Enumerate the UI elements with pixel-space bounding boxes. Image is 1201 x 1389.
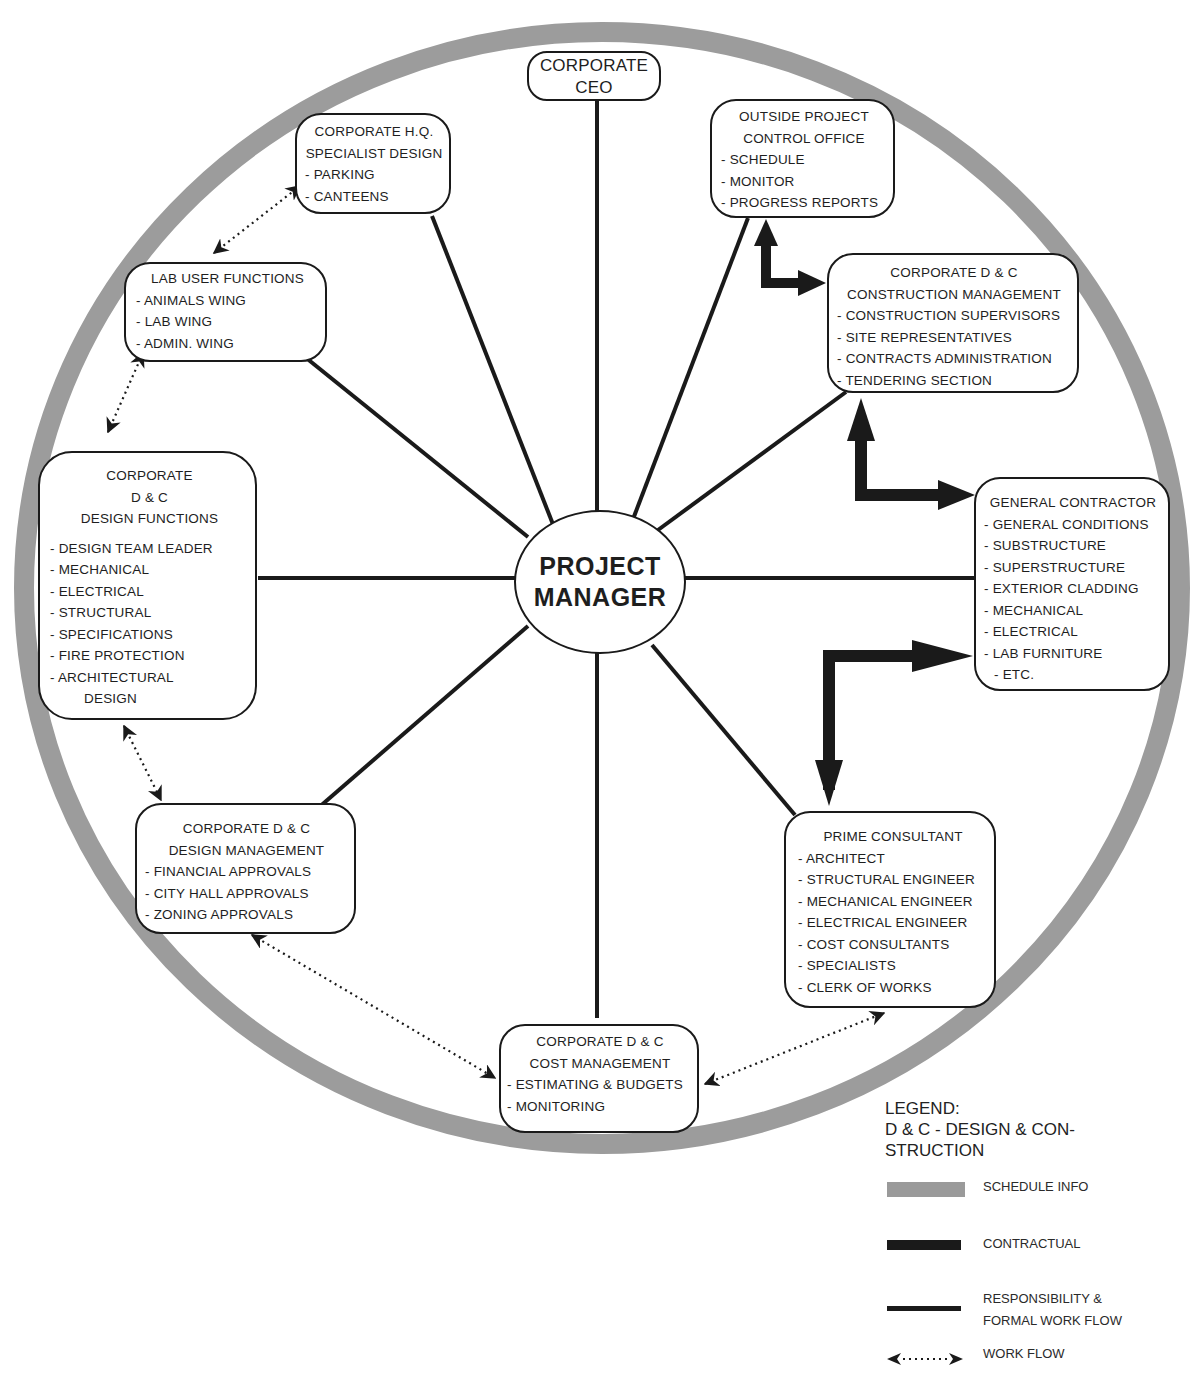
cost-title-line1: CORPORATE D & C — [507, 1031, 693, 1053]
project-organization-diagram: CORPORATE CEO CORPORATE H.Q. SPECIALIST … — [0, 0, 1201, 1389]
legend-definition-line2: STRUCTION — [885, 1140, 1185, 1161]
design-fn-item: ARCHITECTURAL — [50, 667, 249, 689]
work-flow-swatch-icon — [887, 1349, 963, 1369]
hq-item: PARKING — [305, 164, 443, 186]
contractor-item: ETC. — [984, 664, 1162, 686]
design-fn-item: STRUCTURAL — [50, 602, 249, 624]
contractor-item: GENERAL CONDITIONS — [984, 514, 1162, 536]
hq-specialist-design-box: CORPORATE H.Q. SPECIALIST DESIGN PARKING… — [295, 113, 451, 214]
hq-items: PARKING CANTEENS — [305, 164, 443, 207]
design-fn-items: DESIGN TEAM LEADER MECHANICAL ELECTRICAL… — [50, 538, 249, 710]
design-fn-item: FIRE PROTECTION — [50, 645, 249, 667]
control-item: MONITOR — [721, 171, 887, 193]
figure-caption-cropped — [0, 1374, 1201, 1389]
legend-label: WORK FLOW — [983, 1343, 1065, 1365]
consultant-item: CLERK OF WORKS — [798, 977, 988, 999]
lab-item: ANIMALS WING — [136, 290, 319, 312]
legend-definition-line1: D & C - DESIGN & CON- — [885, 1119, 1185, 1140]
pm-line1: PROJECT — [539, 551, 661, 582]
contractor-item: EXTERIOR CLADDING — [984, 578, 1162, 600]
legend-label: SCHEDULE INFO — [983, 1176, 1088, 1198]
contractor-item: LAB FURNITURE — [984, 643, 1162, 665]
legend-label: FORMAL WORK FLOW — [983, 1310, 1122, 1332]
hq-item: CANTEENS — [305, 186, 443, 208]
construction-management-box: CORPORATE D & C CONSTRUCTION MANAGEMENT … — [827, 253, 1079, 393]
cost-item: MONITORING — [507, 1096, 693, 1118]
design-mgmt-title-line2: DESIGN MANAGEMENT — [145, 840, 348, 862]
control-item: PROGRESS REPORTS — [721, 192, 887, 214]
design-mgmt-item: CITY HALL APPROVALS — [145, 883, 348, 905]
contractor-items: GENERAL CONDITIONS SUBSTRUCTURE SUPERSTR… — [984, 514, 1162, 686]
legend-label: RESPONSIBILITY & — [983, 1288, 1102, 1310]
legend-heading: LEGEND: — [885, 1098, 1185, 1119]
design-fn-item-continued: DESIGN — [50, 688, 249, 710]
consultant-item: SPECIALISTS — [798, 955, 988, 977]
cost-management-box: CORPORATE D & C COST MANAGEMENT ESTIMATI… — [499, 1024, 699, 1133]
control-title-line1: OUTSIDE PROJECT — [721, 106, 887, 128]
lab-items: ANIMALS WING LAB WING ADMIN. WING — [136, 290, 319, 355]
legend: LEGEND: D & C - DESIGN & CON- STRUCTION … — [885, 1098, 1185, 1161]
design-functions-box: CORPORATE D & C DESIGN FUNCTIONS DESIGN … — [38, 451, 257, 720]
consultant-item: ELECTRICAL ENGINEER — [798, 912, 988, 934]
contractor-item: MECHANICAL — [984, 600, 1162, 622]
design-management-box: CORPORATE D & C DESIGN MANAGEMENT FINANC… — [135, 803, 356, 934]
hq-title-line2: SPECIALIST DESIGN — [305, 143, 443, 165]
design-mgmt-item: FINANCIAL APPROVALS — [145, 861, 348, 883]
consultant-title: PRIME CONSULTANT — [798, 826, 988, 848]
project-control-office-box: OUTSIDE PROJECT CONTROL OFFICE SCHEDULE … — [710, 99, 895, 218]
lab-item: ADMIN. WING — [136, 333, 319, 355]
construction-item: CONTRACTS ADMINISTRATION — [837, 348, 1071, 370]
contractor-item: ELECTRICAL — [984, 621, 1162, 643]
construction-item: TENDERING SECTION — [837, 370, 1071, 392]
pm-line2: MANAGER — [534, 582, 667, 613]
legend-item-responsibility: RESPONSIBILITY & FORMAL WORK FLOW — [885, 1288, 1185, 1328]
prime-consultant-box: PRIME CONSULTANT ARCHITECT STRUCTURAL EN… — [784, 811, 996, 1008]
construction-title-line1: CORPORATE D & C — [837, 262, 1071, 284]
consultant-item: STRUCTURAL ENGINEER — [798, 869, 988, 891]
responsibility-swatch — [887, 1306, 961, 1311]
cost-item: ESTIMATING & BUDGETS — [507, 1074, 693, 1096]
project-manager-node: PROJECT MANAGER — [514, 510, 686, 654]
design-fn-item: MECHANICAL — [50, 559, 249, 581]
contractual-swatch — [887, 1240, 961, 1250]
lab-user-functions-box: LAB USER FUNCTIONS ANIMALS WING LAB WING… — [124, 262, 327, 362]
lab-title: LAB USER FUNCTIONS — [136, 268, 319, 290]
consultant-items: ARCHITECT STRUCTURAL ENGINEER MECHANICAL… — [798, 848, 988, 999]
cost-items: ESTIMATING & BUDGETS MONITORING — [507, 1074, 693, 1117]
design-fn-title-line2: D & C — [50, 487, 249, 509]
control-item: SCHEDULE — [721, 149, 887, 171]
control-items: SCHEDULE MONITOR PROGRESS REPORTS — [721, 149, 887, 214]
lab-item: LAB WING — [136, 311, 319, 333]
design-mgmt-item: ZONING APPROVALS — [145, 904, 348, 926]
general-contractor-box: GENERAL CONTRACTOR GENERAL CONDITIONS SU… — [974, 477, 1170, 691]
hq-title-line1: CORPORATE H.Q. — [305, 121, 443, 143]
legend-label: CONTRACTUAL — [983, 1233, 1081, 1255]
ceo-line2: CEO — [529, 77, 659, 99]
design-fn-item: DESIGN TEAM LEADER — [50, 538, 249, 560]
construction-item: SITE REPRESENTATIVES — [837, 327, 1071, 349]
ceo-line1: CORPORATE — [529, 55, 659, 77]
construction-items: CONSTRUCTION SUPERVISORS SITE REPRESENTA… — [837, 305, 1071, 391]
construction-item: CONSTRUCTION SUPERVISORS — [837, 305, 1071, 327]
contractor-item: SUBSTRUCTURE — [984, 535, 1162, 557]
consultant-item: MECHANICAL ENGINEER — [798, 891, 988, 913]
legend-item-contractual: CONTRACTUAL — [885, 1233, 1185, 1273]
design-mgmt-items: FINANCIAL APPROVALS CITY HALL APPROVALS … — [145, 861, 348, 926]
design-fn-item: SPECIFICATIONS — [50, 624, 249, 646]
corporate-ceo-box: CORPORATE CEO — [527, 51, 661, 101]
consultant-item: ARCHITECT — [798, 848, 988, 870]
schedule-info-swatch — [887, 1182, 965, 1197]
construction-title-line2: CONSTRUCTION MANAGEMENT — [837, 284, 1071, 306]
consultant-item: COST CONSULTANTS — [798, 934, 988, 956]
contractor-item: SUPERSTRUCTURE — [984, 557, 1162, 579]
design-mgmt-title-line1: CORPORATE D & C — [145, 818, 348, 840]
design-fn-title-line3: DESIGN FUNCTIONS — [50, 508, 249, 530]
contractor-title: GENERAL CONTRACTOR — [984, 492, 1162, 514]
design-fn-title-line1: CORPORATE — [50, 465, 249, 487]
control-title-line2: CONTROL OFFICE — [721, 128, 887, 150]
legend-item-schedule-info: SCHEDULE INFO — [885, 1176, 1185, 1216]
design-fn-item: ELECTRICAL — [50, 581, 249, 603]
cost-title-line2: COST MANAGEMENT — [507, 1053, 693, 1075]
